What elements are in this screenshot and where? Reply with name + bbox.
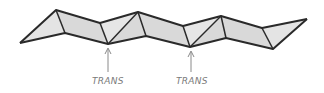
folded-ribbon-diagram: TRANS TRANS [0,0,324,93]
trans-label-2: TRANS [176,76,208,86]
trans-arrow-2 [188,51,194,72]
trans-label-1: TRANS [92,76,124,86]
trans-arrow-1 [105,48,111,72]
